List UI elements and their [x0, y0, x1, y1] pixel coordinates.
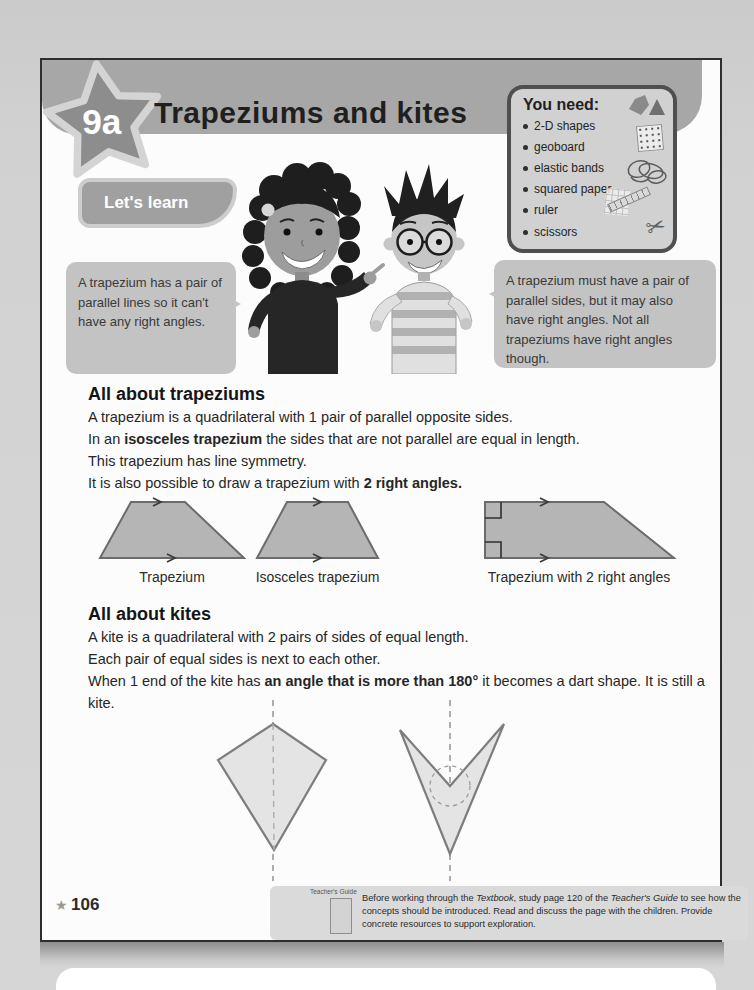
kite-shape: [218, 724, 326, 850]
dart-shape: [400, 724, 504, 854]
lesson-star-badge: 9a: [40, 54, 168, 182]
right-angle-trapezium-figure: Trapezium with 2 right angles: [479, 497, 679, 585]
2d-shapes-icon: [625, 93, 665, 119]
children-illustration: [222, 152, 502, 374]
bullet-icon: [523, 124, 528, 129]
isosceles-trapezium-shape: [255, 497, 380, 563]
bullet-icon: [523, 230, 528, 235]
you-need-item: squared paper: [523, 182, 611, 196]
scanned-page-background: 9a Trapeziums and kites You need: 2-D sh…: [0, 0, 754, 990]
trapezium-figure: Trapezium: [97, 497, 247, 585]
shape-label: Trapezium with 2 right angles: [479, 569, 679, 585]
trapeziums-text: A trapezium is a quadrilateral with 1 pa…: [88, 406, 718, 494]
kites-line-2: Each pair of equal sides is next to each…: [88, 648, 716, 670]
you-need-box: You need: 2-D shapes geoboard elastic ba…: [507, 85, 677, 253]
speech-bubble-left: A trapezium has a pair of parallel lines…: [66, 262, 236, 374]
page-number: ★ 106: [55, 895, 99, 915]
you-need-item-label: squared paper: [534, 182, 611, 196]
page-bottom-shadow: [40, 942, 724, 968]
bullet-icon: [523, 166, 528, 171]
bullet-icon: [523, 208, 528, 213]
you-need-item-label: scissors: [534, 225, 577, 239]
lesson-number: 9a: [82, 102, 122, 141]
you-need-item-label: 2-D shapes: [534, 119, 595, 133]
shape-label: Isosceles trapezium: [255, 569, 380, 585]
boy-character: [370, 164, 472, 374]
scissors-icon: ✂: [643, 213, 668, 241]
teachers-guide-note: Teacher's Guide Before working through t…: [270, 886, 748, 940]
geoboard-icon: [636, 124, 664, 152]
speech-bubble-right: A trapezium must have a pair of parallel…: [494, 260, 716, 368]
next-page-edge: [56, 968, 716, 990]
kite-figure: [208, 698, 338, 883]
girl-character: [242, 162, 383, 374]
elastic-bands-icon: [625, 155, 671, 187]
you-need-item: elastic bands: [523, 161, 604, 175]
trapeziums-heading: All about trapeziums: [88, 384, 265, 405]
kites-heading: All about kites: [88, 604, 211, 625]
bullet-icon: [523, 187, 528, 192]
page-title: Trapeziums and kites: [154, 96, 467, 130]
book-icon: [330, 898, 352, 934]
lets-learn-label: Let's learn: [82, 193, 188, 213]
lets-learn-tab: Let's learn: [78, 178, 237, 228]
you-need-item-label: geoboard: [534, 140, 585, 154]
you-need-item: geoboard: [523, 140, 585, 154]
shape-label: Trapezium: [97, 569, 247, 585]
trapezium-shape: [97, 497, 247, 563]
you-need-title: You need:: [523, 96, 599, 114]
page-number-value: 106: [71, 895, 99, 915]
teachers-guide-label: Teacher's Guide: [310, 888, 357, 895]
star-icon: ★: [55, 897, 68, 913]
teachers-guide-text: Before working through the Textbook, stu…: [362, 892, 742, 932]
trapeziums-line-4: It is also possible to draw a trapezium …: [88, 472, 718, 494]
you-need-item-label: ruler: [534, 203, 558, 217]
dart-figure: [388, 698, 518, 883]
you-need-item: scissors: [523, 225, 577, 239]
you-need-item: 2-D shapes: [523, 119, 595, 133]
you-need-item-label: elastic bands: [534, 161, 604, 175]
textbook-page: 9a Trapeziums and kites You need: 2-D sh…: [40, 58, 722, 942]
isosceles-trapezium-figure: Isosceles trapezium: [255, 497, 380, 585]
trapeziums-line-2: In an isosceles trapezium the sides that…: [88, 428, 718, 450]
trapeziums-line-3: This trapezium has line symmetry.: [88, 450, 718, 472]
you-need-item: ruler: [523, 203, 558, 217]
trapeziums-line-1: A trapezium is a quadrilateral with 1 pa…: [88, 406, 718, 428]
bullet-icon: [523, 145, 528, 150]
right-angle-trapezium-shape: [482, 497, 677, 563]
kites-line-1: A kite is a quadrilateral with 2 pairs o…: [88, 626, 716, 648]
